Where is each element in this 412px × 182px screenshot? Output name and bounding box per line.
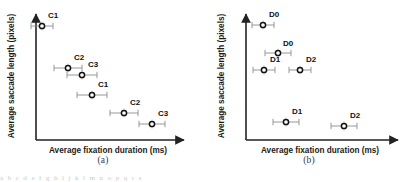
data-point: D1 [253, 55, 281, 75]
data-point: C2 [54, 53, 85, 73]
scatter-figure: C1C2C3C1C2C3 Average saccade length (pix… [0, 0, 412, 182]
point-label: C1 [98, 80, 109, 89]
marker-circle [341, 123, 346, 128]
data-point: D2 [331, 111, 361, 131]
data-point: D0 [252, 10, 280, 30]
panel-a-ylabel: Average saccade length (pixels) [7, 14, 16, 139]
panel-a-xlabel: Average fixation duration (ms) [49, 146, 167, 155]
point-label: D1 [270, 55, 281, 64]
point-label: C2 [130, 98, 141, 107]
panel-b-plot: D0D0D1D2D1D2 Average saccade length (pix… [206, 0, 412, 155]
data-point: D2 [289, 55, 317, 75]
marker-circle [89, 92, 94, 97]
point-label: D2 [306, 55, 317, 64]
marker-circle [79, 72, 84, 77]
panel-a-caption: (a) [0, 155, 206, 165]
marker-circle [260, 22, 265, 27]
panel-b-ylabel: Average saccade length (pixels) [217, 14, 226, 139]
panel-b-caption: (b) [206, 155, 412, 165]
data-point: C3 [67, 60, 99, 80]
panel-b-axes [246, 14, 398, 140]
marker-circle [261, 67, 266, 72]
marker-circle [39, 23, 44, 28]
panel-b-xlabel: Average fixation duration (ms) [261, 146, 379, 155]
marker-circle [121, 110, 126, 115]
panel-a-axes [36, 14, 184, 140]
panel-a: C1C2C3C1C2C3 Average saccade length (pix… [0, 0, 206, 182]
panel-a-plot: C1C2C3C1C2C3 Average saccade length (pix… [0, 0, 206, 155]
cropped-caption-text: a b c d e f g h i j k l m n o p q r s [0, 176, 412, 182]
marker-circle [149, 121, 154, 126]
point-label: C3 [88, 60, 99, 69]
data-point: C2 [110, 98, 141, 118]
data-point: C1 [77, 80, 109, 100]
point-label: D0 [283, 39, 294, 48]
point-label: D2 [350, 111, 361, 120]
point-label: C2 [74, 53, 85, 62]
data-point: D1 [273, 107, 303, 127]
cropped-caption-strip: a b c d e f g h i j k l m n o p q r s [0, 176, 412, 182]
data-point: C3 [139, 109, 169, 129]
marker-circle [65, 65, 70, 70]
panel-b-points: D0D0D1D2D1D2 [252, 10, 361, 131]
point-label: D1 [292, 107, 303, 116]
marker-circle [283, 119, 288, 124]
marker-circle [297, 67, 302, 72]
panel-b: D0D0D1D2D1D2 Average saccade length (pix… [206, 0, 412, 182]
point-label: C1 [48, 11, 59, 20]
data-point: C1 [31, 11, 59, 31]
point-label: D0 [269, 10, 280, 19]
point-label: C3 [158, 109, 169, 118]
panel-a-points: C1C2C3C1C2C3 [31, 11, 169, 129]
